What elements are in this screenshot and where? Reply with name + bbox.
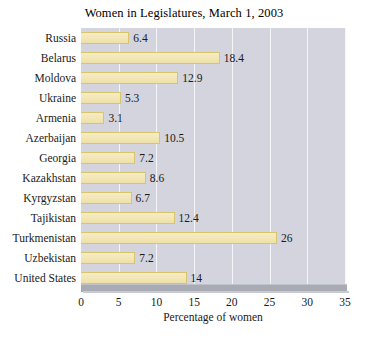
bar-row: Uzbekistan7.2 [0, 248, 368, 268]
bar-row: Kyrgyzstan6.7 [0, 188, 368, 208]
bar[interactable] [81, 272, 187, 284]
bar-row: United States14 [0, 268, 368, 288]
x-tick-label: 15 [179, 294, 209, 310]
bar-value-label: 10.5 [160, 128, 184, 148]
category-label: Russia [0, 28, 76, 48]
category-label: Kazakhstan [0, 168, 76, 188]
x-tick-label: 25 [255, 294, 285, 310]
bar-value-label: 7.2 [135, 148, 153, 168]
bar-row: Kazakhstan8.6 [0, 168, 368, 188]
bar[interactable] [81, 52, 220, 64]
bar-value-label: 18.4 [220, 48, 244, 68]
bar[interactable] [81, 172, 146, 184]
category-label: Moldova [0, 68, 76, 88]
bar-fill [81, 192, 132, 204]
x-axis-title: Percentage of women [81, 311, 345, 323]
category-label: Azerbaijan [0, 128, 76, 148]
category-label: Kyrgyzstan [0, 188, 76, 208]
bar-fill [81, 72, 178, 84]
bar-row: Belarus18.4 [0, 48, 368, 68]
bar[interactable] [81, 112, 104, 124]
bar-fill [81, 152, 135, 164]
bar-value-label: 6.7 [132, 188, 150, 208]
bar-fill [81, 32, 129, 44]
bar-value-label: 8.6 [146, 168, 164, 188]
bar-value-label: 7.2 [135, 248, 153, 268]
bar-row: Turkmenistan26 [0, 228, 368, 248]
x-tick-label: 35 [330, 294, 360, 310]
category-label: United States [0, 268, 76, 288]
bar-fill [81, 252, 135, 264]
bar-value-label: 14 [187, 268, 203, 288]
x-tick-label: 20 [217, 294, 247, 310]
x-tick-label: 5 [104, 294, 134, 310]
x-tick-label: 30 [292, 294, 322, 310]
bar-fill [81, 212, 175, 224]
bar-row: Azerbaijan10.5 [0, 128, 368, 148]
x-tick-label: 0 [66, 294, 96, 310]
bar-row: Russia6.4 [0, 28, 368, 48]
bar-row: Georgia7.2 [0, 148, 368, 168]
bar-fill [81, 92, 121, 104]
chart-title: Women in Legislatures, March 1, 2003 [0, 6, 368, 21]
bar-chart: Women in Legislatures, March 1, 2003 Rus… [0, 0, 368, 338]
bar-fill [81, 172, 146, 184]
category-label: Georgia [0, 148, 76, 168]
bar[interactable] [81, 132, 160, 144]
bar-fill [81, 132, 160, 144]
category-label: Turkmenistan [0, 228, 76, 248]
bar-value-label: 12.4 [175, 208, 199, 228]
bar-fill [81, 232, 277, 244]
category-label: Tajikistan [0, 208, 76, 228]
bar[interactable] [81, 32, 129, 44]
x-tick-label: 10 [141, 294, 171, 310]
category-label: Ukraine [0, 88, 76, 108]
bar[interactable] [81, 92, 121, 104]
bar-row: Armenia3.1 [0, 108, 368, 128]
bar[interactable] [81, 192, 132, 204]
bar-row: Moldova12.9 [0, 68, 368, 88]
plot-floor-shadow [83, 291, 349, 293]
bar-value-label: 26 [277, 228, 293, 248]
bar-value-label: 6.4 [129, 28, 147, 48]
bar[interactable] [81, 252, 135, 264]
bar-value-label: 12.9 [178, 68, 202, 88]
bar[interactable] [81, 72, 178, 84]
bar[interactable] [81, 212, 175, 224]
bar-fill [81, 272, 187, 284]
bar-fill [81, 52, 220, 64]
bar[interactable] [81, 232, 277, 244]
category-label: Belarus [0, 48, 76, 68]
category-label: Armenia [0, 108, 76, 128]
bar-value-label: 3.1 [104, 108, 122, 128]
category-label: Uzbekistan [0, 248, 76, 268]
bar-row: Tajikistan12.4 [0, 208, 368, 228]
bar-value-label: 5.3 [121, 88, 139, 108]
x-axis-tick-labels: 05101520253035 [0, 294, 368, 310]
bar-row: Ukraine5.3 [0, 88, 368, 108]
bar-fill [81, 112, 104, 124]
bar[interactable] [81, 152, 135, 164]
